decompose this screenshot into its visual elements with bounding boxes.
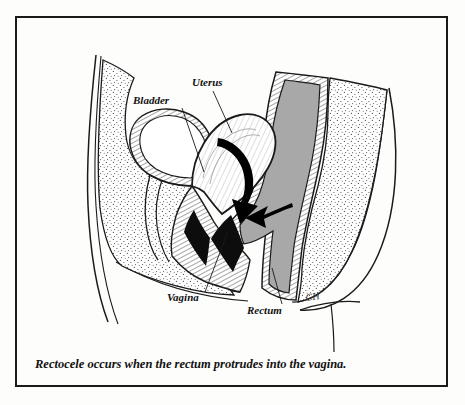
illustration-figure: Bladder Uterus Vagina Rectum CH Rectocel… (0, 0, 465, 405)
illustration-canvas: Bladder Uterus Vagina Rectum CH Rectocel… (0, 0, 465, 405)
label-vagina: Vagina (167, 291, 199, 303)
signature-monogram: CH (305, 290, 321, 303)
label-rectum: Rectum (246, 304, 282, 316)
figure-caption: Rectocele occurs when the rectum protrud… (34, 357, 346, 371)
artist-signature: CH (305, 290, 321, 303)
label-uterus: Uterus (192, 76, 223, 88)
label-bladder: Bladder (132, 94, 170, 106)
